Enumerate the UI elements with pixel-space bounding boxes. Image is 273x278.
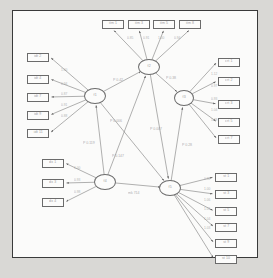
- indicator-box-q3: st 5: [215, 207, 237, 216]
- indicator-label: st 10: [222, 257, 230, 261]
- path-coefficient-label: P 0.147: [112, 156, 124, 160]
- loading-label: 0.93: [211, 99, 217, 102]
- loading-label: 0.94: [61, 83, 67, 86]
- loading-label: 0.93: [74, 180, 80, 183]
- path-coefficient-label: P 0.28: [182, 145, 192, 149]
- indicator-box-l1: idt 2: [27, 53, 49, 62]
- indicator-box-r2: crt 2: [218, 77, 240, 86]
- indicator-box-q6: st 10: [215, 255, 237, 264]
- latent-label: f2: [147, 65, 150, 69]
- path-coefficient-label: P 0.007: [150, 129, 162, 133]
- latent-node-f3: f3: [174, 90, 194, 106]
- loading-label: 1.09: [211, 120, 217, 123]
- path-coefficient-label: mk 714: [128, 193, 139, 197]
- loading-label: 1.03: [204, 228, 210, 231]
- indicator-label: st 5: [223, 209, 229, 213]
- indicator-box-r1: crt 1: [218, 58, 240, 67]
- indicator-label: st 9: [223, 241, 229, 245]
- loading-label: 1.12: [211, 74, 217, 77]
- latent-label: f5: [168, 186, 171, 190]
- loading-label: 0.87: [61, 94, 67, 97]
- indicator-box-b2: dx 3: [42, 179, 64, 188]
- indicator-label: itm 1: [109, 22, 117, 26]
- indicator-box-r4: crt 5: [218, 118, 240, 127]
- indicator-label: crt 3: [225, 102, 232, 106]
- indicator-box-q5: st 9: [215, 239, 237, 248]
- indicator-box-l2: idt 4: [27, 75, 49, 84]
- indicator-box-t4: itm 8: [179, 20, 201, 29]
- latent-node-f4: f4: [94, 174, 116, 190]
- loading-label: 0.88: [61, 116, 67, 119]
- indicator-box-t3: itm 5: [153, 20, 175, 29]
- indicator-box-l4: idt 9: [27, 111, 49, 120]
- indicator-label: itm 5: [160, 22, 168, 26]
- indicator-label: itm 8: [186, 22, 194, 26]
- latent-node-f2: f2: [138, 59, 160, 75]
- indicator-label: idt 9: [34, 113, 41, 117]
- loading-label: 0.91: [61, 105, 67, 108]
- indicator-box-t2: itm 3: [128, 20, 150, 29]
- indicator-label: idt 2: [34, 55, 41, 59]
- indicator-label: idt 4: [34, 77, 41, 81]
- path-coefficient-label: P 0.38: [166, 78, 176, 82]
- path-coefficient-label: P 0.006: [110, 121, 122, 125]
- indicator-label: idt 7: [34, 95, 41, 99]
- indicator-label: crt 2: [225, 79, 232, 83]
- path-coefficient-label: P 0.119: [83, 143, 95, 147]
- indicator-box-t1: itm 1: [102, 20, 124, 29]
- figure-canvas: itm 1itm 3itm 5itm 8idt 2idt 4idt 7idt 9…: [0, 0, 273, 278]
- loading-label: 1.00: [204, 189, 210, 192]
- indicator-box-b1: dx 1: [42, 159, 64, 168]
- indicator-label: idt 11: [33, 131, 42, 135]
- loading-label: 1.00: [74, 168, 80, 171]
- indicator-label: dx 4: [49, 200, 56, 204]
- indicator-label: crt 5: [225, 120, 232, 124]
- loading-label: 0.98: [74, 191, 80, 194]
- indicator-label: crt 7: [225, 137, 232, 141]
- indicator-label: dx 1: [49, 161, 56, 165]
- indicator-box-r5: crt 7: [218, 135, 240, 144]
- latent-node-f1: f1: [84, 88, 106, 104]
- latent-label: f1: [93, 94, 96, 98]
- indicator-box-r3: crt 3: [218, 100, 240, 109]
- indicator-label: crt 1: [225, 60, 232, 64]
- indicator-label: st 3: [223, 192, 229, 196]
- indicator-box-l3: idt 7: [27, 93, 49, 102]
- loading-label: 0.92: [204, 179, 210, 182]
- path-coefficient-label: P 0.42: [113, 80, 123, 84]
- latent-node-f5: f5: [159, 180, 181, 196]
- indicator-label: dx 3: [49, 181, 56, 185]
- latent-label: f4: [103, 180, 106, 184]
- loading-label: 1.04: [204, 218, 210, 221]
- indicator-box-q4: st 7: [215, 223, 237, 232]
- latent-label: f3: [182, 96, 185, 100]
- loading-label: 0.94: [174, 38, 180, 41]
- loading-label: 0.97: [211, 85, 217, 88]
- indicator-box-q2: st 3: [215, 190, 237, 199]
- loading-label: 1.00: [61, 70, 67, 73]
- loading-label: 1.01: [204, 209, 210, 212]
- indicator-box-b3: dx 4: [42, 198, 64, 207]
- indicator-box-l5: idt 11: [27, 129, 49, 138]
- indicator-label: st 7: [223, 225, 229, 229]
- indicator-label: itm 3: [135, 22, 143, 26]
- indicator-box-q1: st 1: [215, 173, 237, 182]
- indicator-label: st 1: [223, 175, 229, 179]
- loading-label: 0.85: [127, 38, 133, 41]
- loading-label: 1.00: [158, 38, 164, 41]
- loading-label: 0.91: [143, 38, 149, 41]
- loading-label: 1.04: [211, 110, 217, 113]
- loading-label: 1.06: [204, 199, 210, 202]
